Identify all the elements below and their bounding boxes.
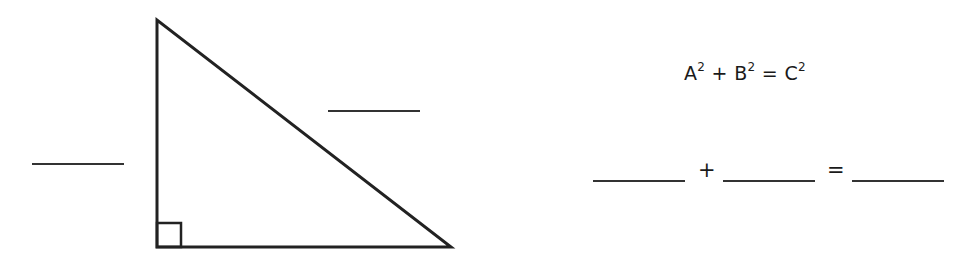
- formula-c: C: [784, 62, 798, 84]
- right-angle-marker: [157, 223, 181, 247]
- pythagorean-formula: A2 + B2 = C2: [684, 62, 806, 84]
- formula-equals: =: [762, 62, 778, 84]
- answer-equals: =: [827, 160, 845, 181]
- answer-plus: +: [698, 160, 716, 181]
- formula-plus: +: [712, 62, 728, 84]
- answer-blank-b[interactable]: [723, 180, 815, 182]
- triangle-drawing: [0, 0, 959, 276]
- formula-a: A: [684, 62, 697, 84]
- formula-c-exponent: 2: [798, 60, 806, 74]
- left-leg-blank[interactable]: [32, 163, 124, 165]
- hypotenuse-blank[interactable]: [328, 110, 420, 112]
- answer-blank-a[interactable]: [593, 180, 685, 182]
- right-triangle: [157, 20, 451, 247]
- formula-b-exponent: 2: [748, 60, 756, 74]
- formula-b: B: [734, 62, 747, 84]
- pythagorean-worksheet: A2 + B2 = C2 + =: [0, 0, 959, 276]
- formula-a-exponent: 2: [697, 60, 705, 74]
- answer-blank-c[interactable]: [852, 180, 944, 182]
